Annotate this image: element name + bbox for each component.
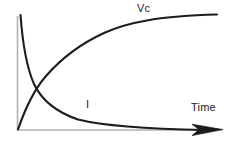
plot-area — [0, 0, 233, 143]
rc-charging-curve-figure: Vc I Time — [0, 0, 233, 143]
curve-label-vc: Vc — [137, 3, 150, 14]
x-axis-label-time: Time — [191, 102, 216, 113]
curve-label-current: I — [86, 99, 89, 110]
capacitor-voltage-curve — [18, 15, 217, 130]
